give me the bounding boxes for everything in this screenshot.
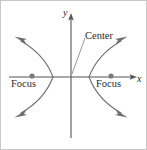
curve-arrow-upper-right-icon [115, 37, 128, 45]
figure-canvas [1, 1, 147, 150]
curve-arrow-lower-right-icon [115, 110, 128, 118]
center-leader-line [72, 38, 85, 74]
axes-group [9, 13, 137, 138]
focus-left-label: Focus [11, 79, 36, 90]
curve-arrow-lower-left-icon [15, 110, 28, 118]
curve-arrow-upper-left-icon [15, 37, 28, 45]
center-label: Center [85, 31, 113, 42]
hyperbola-figure: Focus Focus Center x y [0, 0, 147, 150]
focus-right-label: Focus [96, 79, 121, 90]
y-axis-label: y [63, 8, 67, 18]
x-axis-label: x [137, 74, 141, 84]
